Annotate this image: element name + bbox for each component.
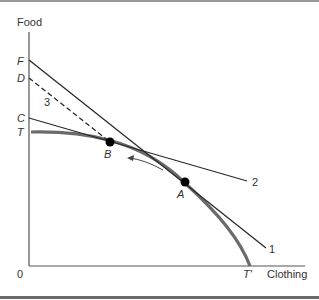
x-axis-label: Clothing [267, 268, 307, 280]
intercept-T: T [17, 126, 25, 138]
intercept-T-prime: T' [243, 268, 253, 280]
intercept-F: F [17, 55, 25, 67]
label-point-B: B [104, 148, 111, 160]
label-point-A: A [176, 188, 184, 200]
label-line-3: 3 [44, 96, 50, 108]
price-line-2 [29, 118, 247, 181]
bottom-border [0, 296, 319, 299]
figure-frame: Food Clothing 0 F D C T T' B A 1 2 3 [0, 0, 319, 300]
ppf-diagram: Food Clothing 0 F D C T T' B A 1 2 3 [0, 0, 319, 300]
point-A [181, 178, 190, 187]
point-B [106, 138, 115, 147]
origin-label: 0 [17, 268, 23, 280]
intercept-D: D [17, 72, 25, 84]
y-axis-label: Food [17, 16, 42, 28]
label-line-1: 1 [269, 243, 275, 255]
intercept-C: C [17, 112, 25, 124]
price-line-1 [29, 60, 266, 248]
ppf-curve [31, 132, 250, 266]
arrow-head-icon [127, 155, 134, 161]
label-line-2: 2 [252, 176, 258, 188]
